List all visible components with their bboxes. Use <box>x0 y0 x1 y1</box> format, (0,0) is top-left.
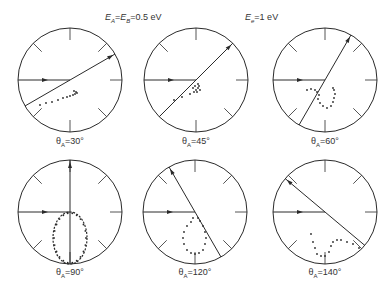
data-point <box>83 251 85 253</box>
data-point <box>56 224 58 226</box>
data-point <box>69 95 71 97</box>
tick-mark <box>223 175 231 183</box>
value: =120° <box>188 267 212 277</box>
data-point <box>197 83 199 85</box>
data-point <box>74 93 76 95</box>
data-point <box>204 243 206 245</box>
data-point <box>317 98 319 100</box>
data-point <box>204 231 206 233</box>
tick-mark <box>288 108 296 116</box>
data-point <box>54 230 56 232</box>
data-point <box>173 99 175 101</box>
panel-label-45: θA=45° <box>182 136 210 148</box>
data-point <box>320 255 322 257</box>
data-point <box>189 93 191 95</box>
value: =90° <box>65 267 84 277</box>
panel-label-120: θA=120° <box>179 267 212 279</box>
value: =45° <box>191 136 210 146</box>
data-point <box>54 244 56 246</box>
data-point <box>198 252 200 254</box>
tick-mark <box>33 175 41 183</box>
tick-mark <box>33 240 41 248</box>
data-point <box>72 94 74 96</box>
electron-a-arrow-icon <box>170 169 175 175</box>
data-point <box>62 97 64 99</box>
data-point <box>183 243 185 245</box>
tick-mark <box>33 43 41 51</box>
data-point <box>332 87 334 89</box>
data-point <box>334 93 336 95</box>
data-point <box>84 244 86 246</box>
data-point <box>76 214 78 216</box>
tick-mark <box>33 108 41 116</box>
electron-a-arrow-icon <box>107 55 113 60</box>
tick-mark <box>223 240 231 248</box>
data-point <box>333 97 335 99</box>
data-point <box>328 251 330 253</box>
data-point <box>45 102 47 104</box>
data-point <box>76 92 78 94</box>
value: =60° <box>320 136 339 146</box>
tick-mark <box>288 43 296 51</box>
data-point <box>80 218 82 220</box>
data-point <box>346 241 348 243</box>
tick-mark <box>288 240 296 248</box>
data-point <box>186 249 188 251</box>
data-point <box>332 101 334 103</box>
data-point <box>194 253 196 255</box>
data-point <box>192 87 194 89</box>
data-point <box>199 220 201 222</box>
data-point <box>310 88 312 90</box>
data-point <box>66 96 68 98</box>
data-point <box>183 231 185 233</box>
data-point <box>53 237 55 239</box>
data-point <box>310 233 312 235</box>
data-point <box>336 239 338 241</box>
data-point <box>193 91 195 93</box>
tick-mark <box>98 43 106 51</box>
data-point <box>318 94 320 96</box>
data-point <box>332 241 334 243</box>
data-point <box>67 262 69 264</box>
data-point <box>71 212 73 214</box>
tick-mark <box>353 175 361 183</box>
data-point <box>198 85 200 87</box>
data-point <box>330 105 332 107</box>
panel-label-60: θA=60° <box>311 136 339 148</box>
data-point <box>324 255 326 257</box>
data-point <box>51 101 53 103</box>
data-point <box>202 225 204 227</box>
data-point <box>194 85 196 87</box>
data-point <box>84 230 86 232</box>
electron-a-arrow-icon <box>68 162 72 168</box>
incident-arrow-icon <box>42 78 48 82</box>
data-point <box>85 237 87 239</box>
data-point <box>316 91 318 93</box>
data-point <box>59 256 61 258</box>
incident-arrow-icon <box>167 210 173 214</box>
data-point <box>314 89 316 91</box>
data-point <box>314 247 316 249</box>
data-point <box>76 260 78 262</box>
data-point <box>190 221 192 223</box>
data-point <box>190 252 192 254</box>
data-point <box>306 89 308 91</box>
data-point <box>192 217 194 219</box>
tick-mark <box>353 43 361 51</box>
data-point <box>73 90 75 92</box>
data-point <box>83 224 85 226</box>
panel-label-140: θA=140° <box>309 267 342 279</box>
data-point <box>340 239 342 241</box>
tick-mark <box>98 175 106 183</box>
data-point <box>205 237 207 239</box>
value: =140° <box>318 267 342 277</box>
incident-arrow-icon <box>297 210 303 214</box>
data-point <box>197 217 199 219</box>
data-point <box>67 212 69 214</box>
data-point <box>352 243 354 245</box>
data-point <box>39 104 41 106</box>
data-point <box>330 245 332 247</box>
tick-mark <box>158 175 166 183</box>
incident-arrow-icon <box>297 78 303 82</box>
data-point <box>182 237 184 239</box>
